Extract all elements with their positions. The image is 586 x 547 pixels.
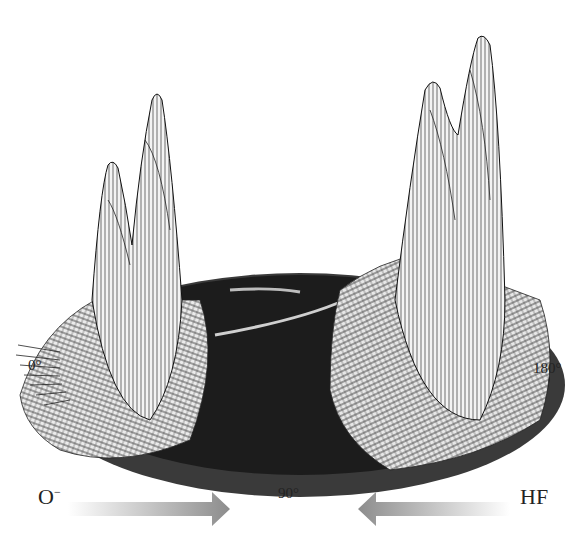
reactant-o-label: O bbox=[38, 484, 54, 509]
angle-label-180: 180° bbox=[533, 360, 562, 377]
reactant-hf: HF bbox=[520, 484, 548, 510]
angle-label-90: 90° bbox=[278, 485, 299, 502]
reactant-o-minus: O− bbox=[38, 484, 61, 510]
reactant-o-charge: − bbox=[54, 485, 61, 499]
angular-distribution-figure: 0° 90° 180° O− HF bbox=[0, 0, 586, 547]
o-minus-arrow bbox=[68, 492, 230, 526]
angle-label-0: 0° bbox=[28, 357, 42, 374]
surface-plot bbox=[0, 0, 586, 547]
hf-arrow bbox=[358, 492, 510, 526]
